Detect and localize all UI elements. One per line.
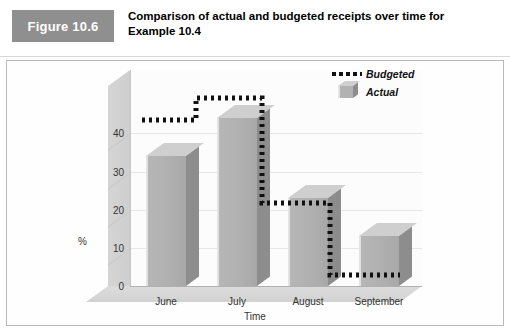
legend-item-actual: Actual	[330, 84, 450, 100]
header-divider	[0, 56, 510, 57]
figure-title-line-2: Example 10.4	[128, 25, 201, 37]
x-tick-september: September	[342, 296, 416, 307]
budgeted-polyline	[142, 98, 400, 275]
figure-header: Figure 10.6 Comparison of actual and bud…	[0, 0, 510, 52]
chart-legend: Budgeted Actual	[330, 66, 450, 102]
figure-title-line-1: Comparison of actual and budgeted receip…	[128, 10, 444, 22]
figure-title: Comparison of actual and budgeted receip…	[128, 9, 488, 39]
swatch-front-face	[338, 86, 353, 98]
x-tick-july: July	[200, 296, 274, 307]
x-tick-june: June	[129, 296, 203, 307]
figure-page: Figure 10.6 Comparison of actual and bud…	[0, 0, 510, 329]
x-axis-label: Time	[0, 311, 510, 322]
plot-area: 0 10 20 30 40 %	[0, 58, 510, 329]
legend-label-actual: Actual	[366, 84, 398, 100]
legend-label-budgeted: Budgeted	[366, 66, 414, 82]
figure-number-badge: Figure 10.6	[12, 10, 114, 42]
bar-swatch-icon	[338, 86, 353, 98]
dotted-line-swatch-icon	[332, 72, 362, 76]
legend-item-budgeted: Budgeted	[330, 66, 450, 82]
swatch-side-face	[353, 82, 358, 98]
x-tick-august: August	[271, 296, 345, 307]
chart-container: 0 10 20 30 40 %	[0, 58, 510, 329]
